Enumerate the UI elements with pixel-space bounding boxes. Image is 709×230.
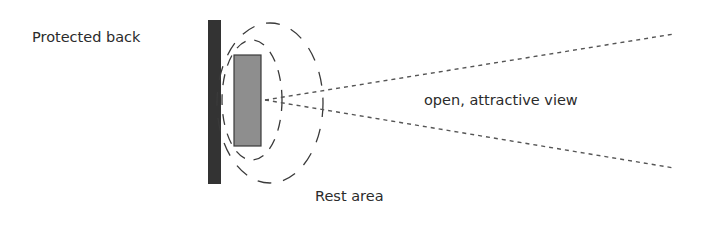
diagram-canvas: Protected back open, attractive view Res… bbox=[0, 0, 709, 230]
sightline-bottom bbox=[265, 100, 674, 168]
sightline-top bbox=[265, 34, 674, 100]
protective-wall bbox=[208, 20, 221, 184]
rest-area-label: Rest area bbox=[315, 189, 384, 204]
protected-back-label: Protected back bbox=[32, 30, 140, 45]
view-label: open, attractive view bbox=[424, 93, 578, 108]
outer-rest-zone bbox=[217, 23, 323, 183]
seat-bench bbox=[234, 55, 261, 146]
